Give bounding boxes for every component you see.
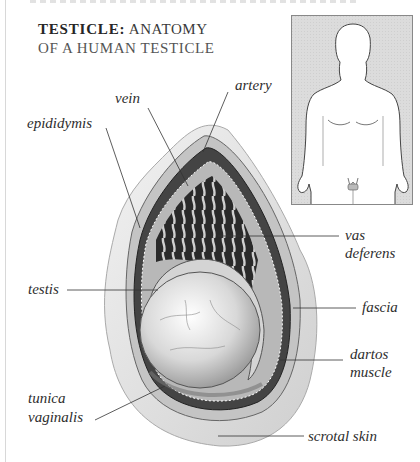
label-artery: artery	[235, 77, 272, 94]
label-scrotal-skin: scrotal skin	[308, 428, 377, 445]
label-epididymis: epididymis	[27, 115, 92, 132]
label-testis: testis	[28, 281, 59, 298]
label-tunica-line2: vaginalis	[28, 409, 83, 426]
label-vas-deferens-line2: deferens	[345, 245, 395, 262]
label-dartos-line2: muscle	[350, 364, 392, 381]
label-dartos-line1: dartos	[350, 346, 388, 363]
label-vas-deferens-line1: vas	[345, 227, 365, 244]
label-tunica-line1: tunica	[28, 390, 66, 407]
label-fascia: fascia	[362, 299, 398, 316]
label-vein: vein	[115, 90, 140, 107]
